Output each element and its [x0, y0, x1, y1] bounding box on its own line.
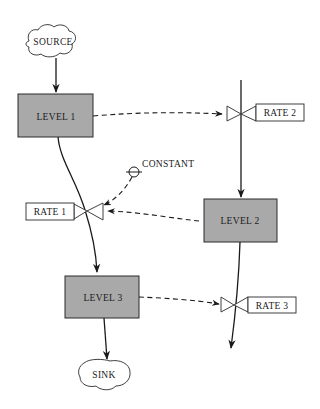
- info-level1-to-rate2: [93, 113, 222, 116]
- rate3-box: RATE 3: [248, 297, 296, 313]
- info-level2-to-rate1: [108, 211, 199, 221]
- source-label: SOURCE: [33, 37, 72, 47]
- rate2-label: RATE 2: [264, 108, 297, 118]
- rate3-label: RATE 3: [256, 301, 289, 311]
- level1-box: LEVEL 1: [18, 94, 93, 137]
- info-level3-to-rate3: [139, 297, 219, 304]
- level1-label: LEVEL 1: [37, 112, 76, 122]
- constant-label: CONSTANT: [142, 159, 194, 169]
- rate3-valve: [221, 297, 248, 312]
- level3-label: LEVEL 3: [84, 293, 123, 303]
- rate2-box: RATE 2: [256, 104, 304, 121]
- sink-cloud: SINK: [79, 359, 131, 389]
- level2-label: LEVEL 2: [221, 216, 260, 226]
- flow-diagram: SOURCE LEVEL 1 RATE 2 CONSTANT RATE 1: [0, 0, 320, 409]
- level3-box: LEVEL 3: [65, 276, 139, 318]
- info-constant-to-rate1: [104, 177, 132, 205]
- rate1-valve: [74, 203, 103, 220]
- rate1-label: RATE 1: [34, 207, 67, 217]
- source-cloud: SOURCE: [26, 25, 76, 57]
- flow-level3-to-sink: [104, 318, 107, 359]
- level2-box: LEVEL 2: [204, 199, 277, 242]
- sink-label: SINK: [92, 370, 115, 380]
- rate1-box: RATE 1: [26, 203, 74, 220]
- flow-level2-out: [231, 242, 240, 348]
- constant-symbol: CONSTANT: [126, 159, 194, 177]
